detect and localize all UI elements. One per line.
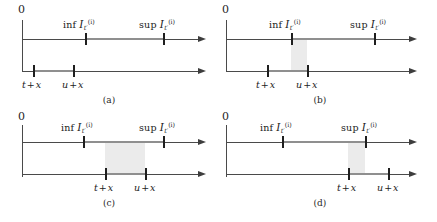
top-axis-arrow-a — [198, 36, 206, 42]
panel-b: 0 inf It′(i) sup It′(i) — [219, 0, 437, 111]
u-plus-x-label-d: u+x — [377, 183, 398, 193]
bottom-interval-segment-b — [267, 70, 307, 73]
inf-label-c: inf It′(i) — [61, 122, 93, 134]
top-interval-segment-a — [85, 38, 163, 41]
zero-vertical-line-a — [22, 20, 23, 72]
interval-overlap-figure: 0 inf It′(i) sup It′(i) — [0, 0, 437, 222]
bottom-interval-segment-c — [105, 173, 145, 176]
sup-tick-d — [365, 136, 367, 148]
zero-label-d: 0 — [222, 111, 229, 122]
script-letter-d-sup: It′(i) — [362, 121, 378, 133]
inf-operator-c: inf — [61, 122, 74, 133]
bottom-axis-arrow-c — [198, 171, 206, 177]
script-letter-d-inf: It′(i) — [276, 121, 292, 133]
t-plus-x-label-a: t+x — [22, 80, 41, 90]
top-axis-arrow-b — [409, 36, 417, 42]
top-interval-segment-c — [83, 141, 163, 144]
inf-tick-a — [85, 33, 87, 45]
sup-operator-d: sup — [341, 122, 359, 133]
zero-label-c: 0 — [18, 111, 25, 122]
sup-operator-b: sup — [350, 19, 368, 30]
sup-tick-c — [163, 136, 165, 148]
sup-operator-a: sup — [139, 19, 157, 30]
bottom-axis-arrow-d — [409, 171, 417, 177]
inf-tick-b — [291, 33, 293, 45]
t-plus-x-tick-d — [348, 168, 350, 180]
script-letter-a-sup: It′(i) — [160, 18, 176, 30]
bottom-axis-b — [226, 71, 411, 72]
u-plus-x-tick-d — [388, 168, 390, 180]
zero-vertical-line-b — [226, 20, 227, 72]
zero-label-a: 0 — [18, 4, 25, 15]
top-interval-segment-b — [291, 38, 374, 41]
u-plus-x-label-b: u+x — [296, 80, 317, 90]
inf-label-d: inf It′(i) — [260, 122, 292, 134]
overlap-shade-b — [291, 39, 307, 71]
sup-label-c: sup It′(i) — [139, 122, 175, 134]
u-plus-x-tick-b — [307, 65, 309, 77]
overlap-shade-d — [348, 142, 365, 174]
inf-operator-b: inf — [269, 19, 282, 30]
t-plus-x-label-c: t+x — [94, 183, 113, 193]
top-axis-arrow-d — [409, 139, 417, 145]
u-plus-x-tick-a — [73, 65, 75, 77]
u-plus-x-label-c: u+x — [134, 183, 155, 193]
script-letter-b-inf: It′(i) — [285, 18, 301, 30]
bottom-axis-arrow-a — [198, 68, 206, 74]
u-plus-x-label-a: u+x — [62, 80, 83, 90]
inf-operator-d: inf — [260, 122, 273, 133]
inf-operator-a: inf — [63, 19, 76, 30]
bottom-interval-segment-a — [33, 70, 73, 73]
t-plus-x-tick-c — [105, 168, 107, 180]
zero-vertical-line-d — [226, 125, 227, 177]
panel-caption-a: (a) — [89, 95, 129, 105]
inf-label-a: inf It′(i) — [63, 19, 95, 31]
top-interval-segment-d — [282, 141, 365, 144]
sup-operator-c: sup — [139, 122, 157, 133]
sup-label-a: sup It′(i) — [139, 19, 175, 31]
sup-tick-a — [163, 33, 165, 45]
u-plus-x-tick-c — [145, 168, 147, 180]
panel-caption-b: (b) — [300, 95, 340, 105]
script-letter-b-sup: It′(i) — [371, 18, 387, 30]
inf-label-b: inf It′(i) — [269, 19, 301, 31]
inf-tick-d — [282, 136, 284, 148]
panel-a: 0 inf It′(i) sup It′(i) — [0, 0, 218, 111]
t-plus-x-label-b: t+x — [256, 80, 275, 90]
inf-tick-c — [83, 136, 85, 148]
t-plus-x-tick-b — [267, 65, 269, 77]
panel-caption-d: (d) — [300, 198, 340, 208]
script-letter-c-inf: It′(i) — [77, 121, 93, 133]
script-letter-a-inf: It′(i) — [79, 18, 95, 30]
script-letter-c-sup: It′(i) — [160, 121, 176, 133]
sup-label-d: sup It′(i) — [341, 122, 377, 134]
sup-tick-b — [374, 33, 376, 45]
zero-vertical-line-c — [22, 125, 23, 177]
t-plus-x-tick-a — [33, 65, 35, 77]
overlap-shade-c — [105, 142, 145, 174]
t-plus-x-label-d: t+x — [337, 183, 356, 193]
panel-c: 0 inf It′(i) sup It′(i) — [0, 111, 218, 222]
panel-d: 0 inf It′(i) sup It′(i) — [219, 111, 437, 222]
bottom-interval-segment-d — [348, 173, 388, 176]
panel-caption-c: (c) — [89, 198, 129, 208]
zero-label-b: 0 — [222, 4, 229, 15]
sup-label-b: sup It′(i) — [350, 19, 386, 31]
bottom-axis-arrow-b — [409, 68, 417, 74]
top-axis-arrow-c — [198, 139, 206, 145]
